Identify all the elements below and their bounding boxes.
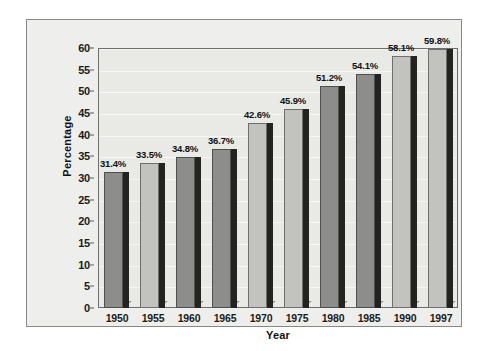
x-tick-label: 1980 [322,312,345,324]
bar-group[interactable]: 51.2% [320,48,339,308]
bar[interactable] [212,149,231,308]
y-tick-mark [90,113,94,114]
x-axis-title: Year [98,329,458,341]
x-tick-label: 1955 [142,312,165,324]
bar-side-shadow [339,86,345,308]
bar-side-shadow [159,163,165,308]
bar[interactable] [140,163,159,308]
y-tick-label: 45 [78,107,90,119]
bar-group[interactable]: 59.8% [428,48,447,308]
y-tick-label: 50 [78,85,90,97]
y-tick-label: 35 [78,150,90,162]
bar-value-label: 36.7% [208,135,234,146]
x-axis: 1950195519601965197019751980198519901997 [98,312,458,328]
x-tick-label: 1985 [358,312,381,324]
y-tick-label: 10 [78,259,90,271]
bar[interactable] [176,157,195,308]
x-tick-label: 1965 [214,312,237,324]
bar-group[interactable]: 36.7% [212,48,231,308]
bar[interactable] [248,123,267,308]
bar[interactable] [320,86,339,308]
bar-value-label: 45.9% [280,95,306,106]
bar-side-shadow [123,172,129,308]
bar[interactable] [428,49,447,308]
bar-group[interactable]: 45.9% [284,48,303,308]
y-tick-mark [90,308,94,309]
y-axis: 605550454035302520151050 [53,48,94,308]
x-tick-label: 1990 [394,312,417,324]
bar-side-shadow [411,56,417,308]
y-tick-mark [90,48,94,49]
x-tick-label: 1975 [286,312,309,324]
bar-side-shadow [267,123,273,308]
bar-group[interactable]: 58.1% [392,48,411,308]
bar-group[interactable]: 31.4% [104,48,123,308]
bar[interactable] [392,56,411,308]
y-tick-label: 30 [78,172,90,184]
y-tick-mark [90,286,94,287]
y-tick-label: 25 [78,194,90,206]
y-tick-label: 20 [78,215,90,227]
y-tick-label: 40 [78,129,90,141]
bar-group[interactable]: 34.8% [176,48,195,308]
chart-frame: 605550454035302520151050 Percentage 31.4… [26,19,462,327]
bar-value-label: 51.2% [316,72,342,83]
bar-side-shadow [195,157,201,308]
y-tick-mark [90,156,94,157]
bar-value-label: 59.8% [424,35,450,46]
bar-series: 31.4%33.5%34.8%36.7%42.6%45.9%51.2%54.1%… [98,48,458,308]
y-tick-mark [90,199,94,200]
bar-group[interactable]: 42.6% [248,48,267,308]
bar-group[interactable]: 33.5% [140,48,159,308]
y-tick-label: 55 [78,64,90,76]
y-tick-mark [90,264,94,265]
bar-value-label: 34.8% [172,143,198,154]
x-tick-label: 1997 [430,312,453,324]
x-tick-label: 1960 [178,312,201,324]
y-tick-mark [90,134,94,135]
y-tick-mark [90,243,94,244]
y-tick-label: 15 [78,237,90,249]
y-axis-title: Percentage [61,86,73,206]
bar-side-shadow [447,49,453,308]
x-tick-label: 1950 [106,312,129,324]
bar-value-label: 42.6% [244,109,270,120]
y-tick-mark [90,69,94,70]
bar-side-shadow [231,149,237,308]
bar-value-label: 58.1% [388,42,414,53]
bar-value-label: 54.1% [352,60,378,71]
x-tick-label: 1970 [250,312,273,324]
y-tick-mark [90,178,94,179]
bar[interactable] [284,109,303,308]
bar-value-label: 31.4% [100,158,126,169]
chart-page: 605550454035302520151050 Percentage 31.4… [0,0,486,351]
bar-side-shadow [303,109,309,308]
y-tick-mark [90,91,94,92]
y-tick-mark [90,221,94,222]
bar[interactable] [356,74,375,308]
bar-value-label: 33.5% [136,149,162,160]
bar-group[interactable]: 54.1% [356,48,375,308]
bar-side-shadow [375,74,381,308]
y-tick-label: 60 [78,42,90,54]
bar[interactable] [104,172,123,308]
